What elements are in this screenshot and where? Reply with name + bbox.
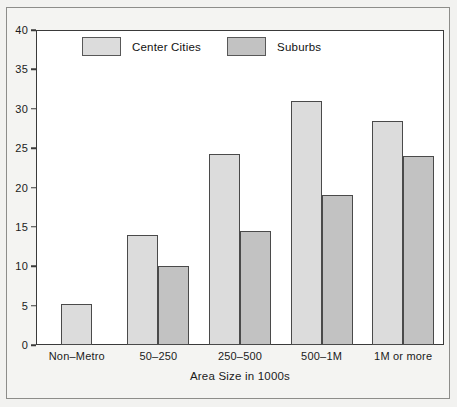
bar-group — [362, 30, 444, 345]
y-axis-tick-label: 35 — [15, 63, 28, 75]
x-axis-tick-label: Non–Metro — [49, 350, 105, 362]
bar-suburbs — [322, 195, 353, 345]
bar-center-cities — [291, 101, 322, 345]
x-axis-title: Area Size in 1000s — [36, 370, 444, 382]
bar-center-cities — [61, 304, 92, 345]
legend-label-suburbs: Suburbs — [277, 41, 321, 53]
bar-group — [281, 30, 363, 345]
chart-legend: Center Cities Suburbs — [82, 37, 321, 56]
legend-item-suburbs: Suburbs — [227, 37, 321, 56]
y-axis-tick-label: 10 — [15, 260, 28, 272]
y-axis-tick-label: 20 — [15, 182, 28, 194]
legend-swatch-center-cities-icon — [82, 37, 121, 56]
y-axis-tick-label: 30 — [15, 103, 28, 115]
bar-center-cities — [209, 154, 240, 345]
bar-suburbs — [158, 266, 189, 345]
x-axis-tick-label: 500–1M — [301, 350, 342, 362]
legend-item-center-cities: Center Cities — [82, 37, 201, 56]
bar-group — [199, 30, 281, 345]
figure-container: 0510152025303540 Center Cities Suburbs N… — [0, 0, 457, 407]
y-axis-tick-label: 40 — [15, 24, 28, 36]
x-axis-tick-label: 1M or more — [374, 350, 432, 362]
bar-suburbs — [240, 231, 271, 345]
x-axis-tick-label: 250–500 — [218, 350, 262, 362]
bar-suburbs — [403, 156, 434, 345]
bar-center-cities — [372, 121, 403, 345]
x-axis: Non–Metro50–250250–500500–1M1M or more — [36, 347, 444, 369]
bar-center-cities — [127, 235, 158, 345]
bar-group — [118, 30, 200, 345]
bar-group — [36, 30, 118, 345]
y-axis-tick-label: 15 — [15, 221, 28, 233]
bars-layer — [36, 30, 444, 345]
x-axis-tick-label: 50–250 — [139, 350, 177, 362]
y-axis: 0510152025303540 — [0, 30, 36, 345]
y-axis-tick-label: 5 — [22, 300, 28, 312]
legend-label-center-cities: Center Cities — [132, 41, 201, 53]
y-axis-tick-label: 25 — [15, 142, 28, 154]
y-axis-tick-label: 0 — [22, 339, 28, 351]
legend-swatch-suburbs-icon — [227, 37, 266, 56]
